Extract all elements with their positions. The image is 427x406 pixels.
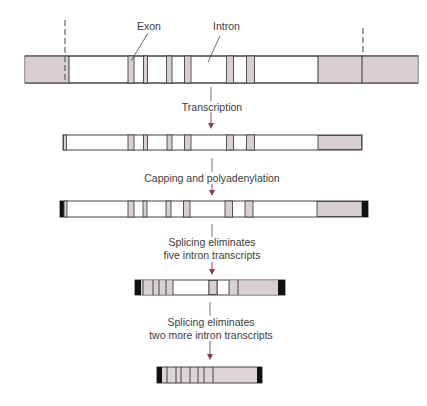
exon-label: Exon [137,20,161,32]
step-transcription-label: Transcription [182,101,242,113]
step-splicing-2-label-line-1: Splicing eliminates [168,316,255,328]
poly-a-tail [362,201,368,217]
splicing-diagram [0,0,427,406]
primary-transcript [63,135,362,150]
cap [60,201,64,217]
capped-polyadenylated-transcript [60,201,368,217]
step-splicing-2-label-line-2: two more intron transcripts [149,329,273,341]
step-splicing-1-label-line-1: Splicing eliminates [169,236,256,248]
step-splicing-1-label-line-2: five intron transcripts [164,249,261,261]
intron-label: Intron [213,20,240,32]
mature-mrna [157,367,262,383]
partially-spliced-transcript [135,280,285,295]
step-capping-label: Capping and polyadenylation [144,172,279,184]
